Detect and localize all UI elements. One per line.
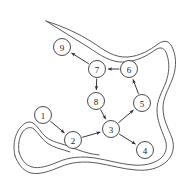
node-label-1: 1 bbox=[41, 111, 46, 121]
node-label-4: 4 bbox=[143, 146, 148, 156]
edge-7-to-9 bbox=[72, 53, 89, 64]
node-label-3: 3 bbox=[109, 125, 114, 135]
edge-3-to-5 bbox=[119, 110, 134, 122]
node-label-8: 8 bbox=[94, 97, 99, 107]
node-5[interactable]: 5 bbox=[134, 95, 151, 112]
node-2[interactable]: 2 bbox=[65, 132, 82, 149]
node-9[interactable]: 9 bbox=[54, 39, 71, 56]
node-label-6: 6 bbox=[127, 65, 132, 75]
edge-5-to-6 bbox=[133, 80, 138, 94]
edge-2-to-3 bbox=[83, 132, 100, 137]
node-3[interactable]: 3 bbox=[103, 121, 120, 138]
edge-3-to-4 bbox=[120, 134, 136, 144]
graph-svg: 123456789 bbox=[0, 0, 186, 192]
boundary-curve-3 bbox=[14, 122, 99, 156]
node-7[interactable]: 7 bbox=[89, 61, 106, 78]
node-8[interactable]: 8 bbox=[88, 93, 105, 110]
node-4[interactable]: 4 bbox=[137, 142, 154, 159]
node-label-5: 5 bbox=[140, 99, 145, 109]
edge-1-to-2 bbox=[51, 121, 64, 132]
node-label-7: 7 bbox=[95, 65, 100, 75]
node-6[interactable]: 6 bbox=[121, 61, 138, 78]
node-label-9: 9 bbox=[60, 43, 65, 53]
node-label-2: 2 bbox=[71, 136, 76, 146]
diagram-canvas: 123456789 bbox=[0, 0, 186, 192]
edge-8-to-3 bbox=[101, 110, 106, 119]
node-1[interactable]: 1 bbox=[35, 107, 52, 124]
